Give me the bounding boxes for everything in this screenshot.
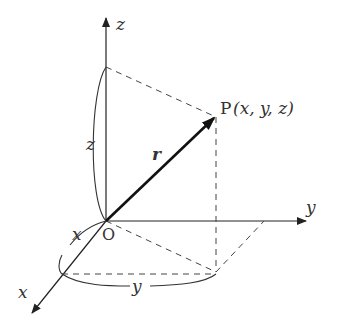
z-dimension-brace <box>93 67 106 221</box>
vector-r <box>106 118 214 221</box>
z-dimension-label: z <box>85 134 96 154</box>
y-dimension-label: y <box>131 276 142 296</box>
x-axis <box>32 221 106 313</box>
x-axis-label: x <box>18 282 28 302</box>
x-dimension-label: x <box>72 224 82 244</box>
z-axis-label: z <box>115 14 126 34</box>
vector-r-label: r <box>152 144 162 164</box>
y-axis-label: y <box>305 197 316 217</box>
origin-label: O <box>102 225 115 244</box>
point-p-coords: (x, y, z) <box>233 98 294 118</box>
diagram-canvas: z y x O r P (x, y, z) z x y <box>0 0 344 335</box>
coordinate-diagram: z y x O r P (x, y, z) z x y <box>0 0 344 335</box>
point-p-name: P <box>220 98 231 118</box>
